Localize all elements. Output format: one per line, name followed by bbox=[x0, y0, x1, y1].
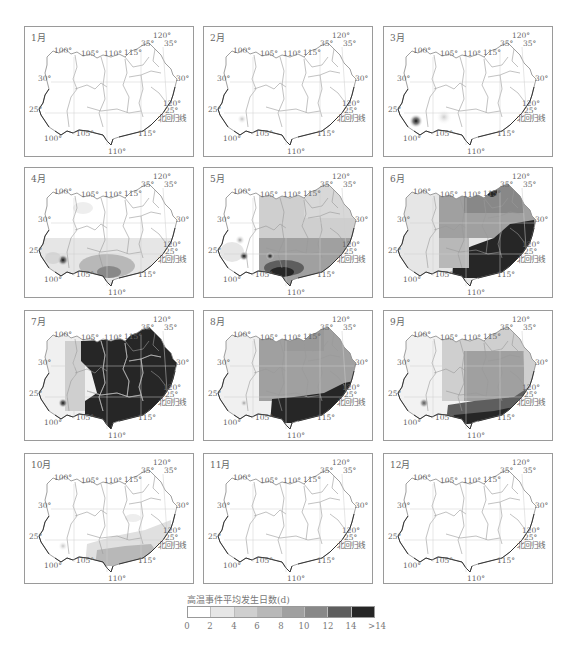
graticule-label: 105° bbox=[81, 50, 99, 58]
graticule-label: 30° bbox=[176, 502, 189, 510]
graticule-label: 35° bbox=[164, 40, 177, 48]
tropic-of-cancer-label: 北回归线 bbox=[517, 115, 545, 123]
legend-tick: 12 bbox=[323, 621, 334, 631]
graticule-label: 115° bbox=[303, 476, 321, 484]
graticule-label: 100° bbox=[44, 562, 62, 570]
graticule-label: 100° bbox=[54, 331, 72, 339]
graticule-label: 35° bbox=[343, 467, 356, 475]
graticule-label: 110° bbox=[108, 432, 126, 440]
graticule-label: 110° bbox=[104, 191, 122, 199]
graticule-label: 115° bbox=[124, 190, 142, 198]
panel-dec: 12月 100°105°110°115°35°120°35°30°30°25°1… bbox=[383, 453, 553, 584]
graticule-label: 30° bbox=[176, 216, 189, 224]
tropic-of-cancer-label: 北回归线 bbox=[158, 115, 186, 123]
graticule-label: 115° bbox=[124, 333, 142, 341]
graticule-label: 110° bbox=[104, 477, 122, 485]
graticule-label: 115° bbox=[138, 414, 156, 422]
graticule-label: 35° bbox=[343, 181, 356, 189]
legend-bin-4-6 bbox=[235, 607, 258, 617]
tropic-of-cancer-label: 北回归线 bbox=[158, 256, 186, 264]
graticule-label: 30° bbox=[217, 359, 230, 367]
legend-tick: 0 bbox=[184, 621, 189, 631]
graticule-label: 100° bbox=[233, 474, 251, 482]
month-label: 11月 bbox=[210, 458, 230, 471]
graticule-label: 25° bbox=[208, 106, 221, 114]
graticule-label: 115° bbox=[497, 271, 515, 279]
graticule-label: 110° bbox=[463, 477, 481, 485]
panel-oct: 10月 100°105°110°115°35°120°35°30°30°25°1… bbox=[24, 453, 194, 584]
graticule-label: 35° bbox=[141, 40, 154, 48]
graticule-label: 25° bbox=[208, 533, 221, 541]
tropic-of-cancer-label: 北回归线 bbox=[337, 115, 365, 123]
graticule-label: 110° bbox=[287, 148, 305, 156]
graticule-label: 115° bbox=[317, 130, 335, 138]
graticule-label: 105° bbox=[260, 477, 278, 485]
graticule-label: 105° bbox=[76, 414, 94, 422]
graticule-label: 100° bbox=[413, 331, 431, 339]
graticule-label: 115° bbox=[124, 476, 142, 484]
graticule-label: 30° bbox=[397, 502, 410, 510]
graticule-label: 105° bbox=[440, 477, 458, 485]
graticule-label: 35° bbox=[500, 40, 513, 48]
month-label: 6月 bbox=[390, 172, 405, 185]
graticule-label: 25° bbox=[29, 390, 42, 398]
legend-bin-0-2 bbox=[188, 607, 211, 617]
graticule-label: 100° bbox=[44, 419, 62, 427]
graticule-label: 25° bbox=[388, 247, 401, 255]
graticule-label: 105° bbox=[260, 191, 278, 199]
graticule-label: 35° bbox=[343, 40, 356, 48]
month-label: 4月 bbox=[31, 172, 46, 185]
graticule-label: 110° bbox=[463, 334, 481, 342]
graticule-label: 30° bbox=[355, 75, 368, 83]
graticule-label: 100° bbox=[223, 135, 241, 143]
graticule-label: 35° bbox=[320, 181, 333, 189]
graticule-label: 115° bbox=[317, 557, 335, 565]
graticule-label: 30° bbox=[217, 75, 230, 83]
legend-tick: 14 bbox=[346, 621, 357, 631]
graticule-label: 110° bbox=[283, 334, 301, 342]
legend-tick: 8 bbox=[278, 621, 283, 631]
graticule-label: 105° bbox=[255, 557, 273, 565]
graticule-label: 100° bbox=[223, 562, 241, 570]
graticule-label: 30° bbox=[397, 359, 410, 367]
graticule-label: 30° bbox=[397, 216, 410, 224]
legend-tick: 6 bbox=[254, 621, 259, 631]
graticule-label: 30° bbox=[217, 502, 230, 510]
graticule-label: 30° bbox=[38, 359, 51, 367]
panel-may: 5月 100°105°110°115°35°120°35°30°30°25°12… bbox=[203, 167, 373, 298]
graticule-label: 110° bbox=[104, 50, 122, 58]
graticule-label: 105° bbox=[255, 271, 273, 279]
graticule-label: 25° bbox=[29, 106, 42, 114]
graticule-label: 110° bbox=[463, 50, 481, 58]
graticule-label: 30° bbox=[355, 359, 368, 367]
legend-bin-6-8 bbox=[258, 607, 281, 617]
graticule-label: 105° bbox=[260, 50, 278, 58]
graticule-label: 115° bbox=[497, 557, 515, 565]
month-label: 12月 bbox=[390, 458, 410, 471]
month-label: 7月 bbox=[31, 315, 46, 328]
graticule-label: 100° bbox=[233, 47, 251, 55]
graticule-label: 100° bbox=[403, 419, 421, 427]
graticule-label: 35° bbox=[141, 181, 154, 189]
graticule-label: 35° bbox=[523, 324, 536, 332]
graticule-label: 110° bbox=[463, 191, 481, 199]
graticule-label: 115° bbox=[317, 414, 335, 422]
tropic-of-cancer-label: 北回归线 bbox=[337, 399, 365, 407]
graticule-label: 100° bbox=[44, 276, 62, 284]
graticule-label: 105° bbox=[260, 334, 278, 342]
graticule-label: 115° bbox=[483, 49, 501, 57]
graticule-label: 115° bbox=[317, 271, 335, 279]
graticule-label: 30° bbox=[535, 216, 548, 224]
graticule-label: 115° bbox=[497, 130, 515, 138]
tropic-of-cancer-label: 北回归线 bbox=[158, 399, 186, 407]
graticule-label: 35° bbox=[500, 467, 513, 475]
graticule-label: 30° bbox=[397, 75, 410, 83]
graticule-label: 115° bbox=[303, 190, 321, 198]
graticule-label: 30° bbox=[355, 502, 368, 510]
legend-tick: 10 bbox=[299, 621, 310, 631]
tropic-of-cancer-label: 北回归线 bbox=[337, 256, 365, 264]
tropic-of-cancer-label: 北回归线 bbox=[517, 256, 545, 264]
legend-tick: 2 bbox=[207, 621, 212, 631]
graticule-label: 105° bbox=[81, 477, 99, 485]
graticule-label: 105° bbox=[440, 191, 458, 199]
